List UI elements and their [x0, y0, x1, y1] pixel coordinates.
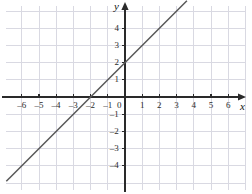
y-tick-label--2: –2 [110, 127, 119, 136]
y-tick-label-2: 2 [114, 58, 119, 67]
origin-label: 0 [117, 101, 122, 110]
x-tick-label-4: 4 [192, 101, 197, 110]
x-tick-label--6: –6 [17, 101, 26, 110]
x-tick-label-3: 3 [174, 101, 179, 110]
graph-figure: –6–5–4–3–2–11234564321–1–2–3–40xy [0, 0, 252, 194]
y-axis-name: y [114, 1, 119, 12]
x-tick-label-1: 1 [140, 101, 145, 110]
x-tick-label--2: –2 [86, 101, 95, 110]
x-tick-label--4: –4 [52, 101, 61, 110]
y-tick-label-3: 3 [114, 41, 119, 50]
x-tick-label--3: –3 [69, 101, 78, 110]
y-tick-label--1: –1 [110, 110, 119, 119]
coordinate-plane [0, 0, 252, 194]
y-tick-label--4: –4 [110, 161, 119, 170]
x-tick-label--5: –5 [34, 101, 43, 110]
y-tick-label--3: –3 [110, 144, 119, 153]
y-tick-label-1: 1 [114, 75, 119, 84]
x-axis-name: x [240, 101, 245, 112]
y-tick-label-4: 4 [114, 24, 119, 33]
gridlines [6, 6, 246, 190]
x-tick-label-5: 5 [209, 101, 214, 110]
x-tick-label-2: 2 [157, 101, 162, 110]
x-tick-label-6: 6 [226, 101, 231, 110]
